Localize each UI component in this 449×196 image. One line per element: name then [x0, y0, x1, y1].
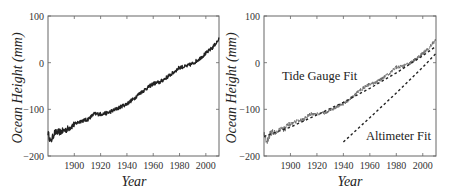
- altimeter-fit-label: Altimeter Fit: [366, 129, 431, 143]
- left-xaxis-title: Year: [121, 174, 147, 189]
- left-ytick-neg200: −200: [23, 151, 44, 162]
- x-tick-label: 1960: [360, 160, 380, 171]
- x-tick-label: 1900: [64, 160, 84, 171]
- x-tick-label: 2000: [413, 160, 433, 171]
- right-ytick-neg200: −200: [239, 151, 260, 162]
- right-ytick-0: 0: [255, 58, 260, 69]
- x-tick-label: 1940: [333, 160, 353, 171]
- right-ytick-neg100: −100: [239, 104, 260, 115]
- x-tick-label: 2000: [196, 160, 216, 171]
- figure: 100 0 −100 −200 190019201940196019802000…: [0, 0, 449, 196]
- left-ytick-100: 100: [29, 11, 44, 22]
- x-tick-label: 1940: [117, 160, 137, 171]
- left-xtick-labels: 190019201940196019802000: [64, 160, 216, 171]
- left-chart-panel: 100 0 −100 −200 190019201940196019802000…: [10, 11, 219, 189]
- left-ytick-0: 0: [39, 58, 44, 69]
- tide-gauge-fit-label: Tide Gauge Fit: [282, 69, 358, 83]
- x-tick-label: 1900: [280, 160, 300, 171]
- x-tick-label: 1980: [386, 160, 406, 171]
- right-ytick-100: 100: [245, 11, 260, 22]
- right-xtick-labels: 190019201940196019802000: [280, 160, 432, 171]
- left-plot-frame: [48, 16, 219, 156]
- left-ytick-neg100: −100: [23, 104, 44, 115]
- x-tick-label: 1920: [307, 160, 327, 171]
- x-tick-label: 1960: [143, 160, 163, 171]
- right-yaxis-title: Ocean Height (mm): [224, 32, 240, 144]
- right-xaxis-title: Year: [337, 174, 363, 189]
- right-chart-panel: 100 0 −100 −200 190019201940196019802000…: [224, 11, 436, 189]
- x-tick-label: 1920: [91, 160, 111, 171]
- left-yaxis-title: Ocean Height (mm): [10, 32, 26, 144]
- x-tick-label: 1980: [170, 160, 190, 171]
